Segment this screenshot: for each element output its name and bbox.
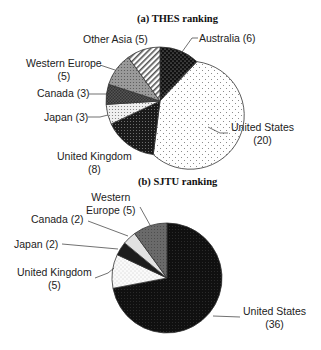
sjtu-label-canada: Canada (2) (31, 213, 84, 226)
thes-label-australia: Australia (6) (199, 32, 256, 45)
thes-label-western-europe: Western Europe (5) (26, 57, 102, 83)
thes-label-united-kingdom: United Kingdom (8) (57, 150, 132, 176)
pie-charts (0, 0, 321, 350)
thes-label-other-asia: Other Asia (5) (83, 33, 148, 46)
thes-label-united-states: United States (20) (231, 121, 294, 147)
sjtu-chart-title: (b) SJTU ranking (138, 176, 217, 187)
sjtu-label-united-states: United States (36) (243, 305, 306, 331)
thes-label-canada: Canada (3) (37, 87, 90, 100)
thes-chart-title: (a) THES ranking (137, 13, 218, 24)
sjtu-label-western-europe: Western Europe (5) (86, 191, 136, 217)
sjtu-pie (112, 223, 222, 333)
sjtu-label-japan: Japan (2) (14, 238, 58, 251)
sjtu-label-united-kingdom: United Kingdom (5) (17, 266, 92, 292)
thes-label-japan: Japan (3) (44, 111, 88, 124)
